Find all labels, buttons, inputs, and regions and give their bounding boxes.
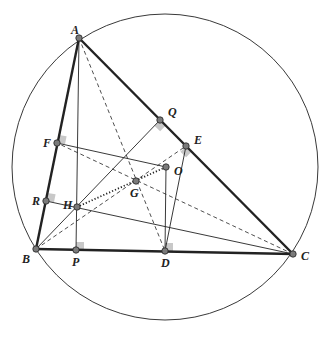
segments — [36, 38, 293, 254]
label-R: R — [31, 194, 40, 208]
point-E — [183, 143, 189, 149]
label-D: D — [160, 256, 170, 270]
point-R — [43, 198, 49, 204]
segment-AD — [79, 38, 165, 251]
segment-BE — [36, 146, 186, 249]
point-B — [33, 246, 39, 252]
geometry-diagram: ABCQEFRHGOPD — [0, 0, 331, 337]
label-P: P — [72, 255, 80, 269]
point-O — [163, 164, 169, 170]
label-G: G — [130, 186, 139, 200]
label-F: F — [42, 136, 51, 150]
label-B: B — [21, 252, 30, 266]
point-D — [162, 248, 168, 254]
segment-AP — [76, 38, 79, 250]
label-C: C — [301, 249, 310, 263]
point-H — [74, 204, 80, 210]
right-angle-markers — [46, 120, 192, 251]
label-A: A — [70, 23, 79, 37]
segment-BQ — [36, 120, 160, 249]
point-P — [73, 247, 79, 253]
point-F — [54, 140, 60, 146]
point-C — [290, 251, 296, 257]
point-G — [133, 178, 139, 184]
label-Q: Q — [168, 105, 177, 119]
segment-CF — [57, 143, 293, 254]
point-Q — [157, 117, 163, 123]
label-H: H — [62, 198, 73, 212]
segment-OD — [165, 167, 166, 251]
segment-FO — [57, 143, 166, 167]
label-E: E — [193, 133, 202, 147]
label-O: O — [174, 164, 183, 178]
